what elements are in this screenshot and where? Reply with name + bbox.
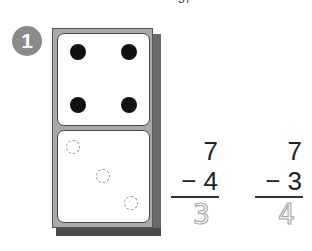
domino	[52, 28, 153, 228]
traced-pip	[96, 169, 110, 183]
problem-number-badge: 1	[12, 26, 42, 56]
page-number-fragment: 37	[178, 0, 191, 6]
domino-top-half	[57, 33, 150, 126]
traced-pip	[66, 140, 80, 154]
traced-pip	[124, 196, 138, 210]
domino-bottom-shadow	[56, 228, 161, 236]
pip	[121, 97, 137, 113]
pip	[70, 97, 86, 113]
domino-side-shadow	[153, 34, 161, 234]
pip	[70, 44, 86, 60]
domino-body	[52, 28, 153, 228]
minuend-2: 7	[252, 136, 302, 167]
domino-bottom-half	[57, 130, 150, 223]
subtrahend-1: − 4	[168, 166, 218, 197]
answer-1: 3	[193, 198, 210, 231]
minuend-1: 7	[168, 136, 218, 167]
pip	[121, 44, 137, 60]
subtrahend-2: − 3	[252, 166, 302, 197]
answer-2: 4	[278, 198, 295, 231]
